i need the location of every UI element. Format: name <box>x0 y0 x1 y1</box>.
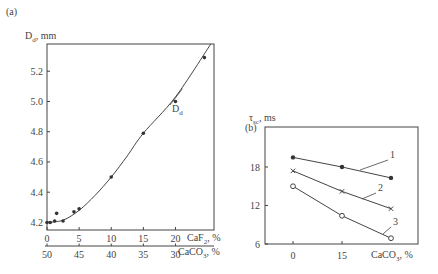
data-point <box>77 207 81 211</box>
data-point <box>109 175 113 179</box>
data-point <box>55 212 59 216</box>
series-label-1: 1 <box>390 149 395 160</box>
x-tick-label-caf2: 10 <box>106 233 116 244</box>
y-tick-label: 6 <box>255 239 260 250</box>
marker-open-circle <box>389 236 394 241</box>
x-tick-label-caf2: 0 <box>45 233 50 244</box>
x-tick-label: 15 <box>337 250 347 261</box>
y-tick-label: 4.6 <box>31 156 44 167</box>
data-point <box>174 100 178 104</box>
y-tick-label: 4.4 <box>31 187 44 198</box>
marker-filled-circle <box>291 155 295 159</box>
marker-open-circle <box>340 213 345 218</box>
dd-curve <box>47 44 211 222</box>
data-point <box>45 221 49 225</box>
x-tick-label-caco3: 30 <box>170 249 180 260</box>
series-line-3 <box>293 186 391 238</box>
marker-filled-circle <box>340 165 344 169</box>
series-label-leader <box>383 227 391 234</box>
y-tick-label: 5.0 <box>31 96 44 107</box>
marker-open-circle <box>291 184 296 189</box>
series-label-2: 2 <box>378 182 383 193</box>
y-tick-label: 12 <box>250 200 260 211</box>
x-tick-label-caf2: 15 <box>138 233 148 244</box>
series-line-2 <box>293 171 391 209</box>
chart-a-frame <box>47 44 214 230</box>
x-tick-label-caf2: 5 <box>77 233 82 244</box>
series-label-leader <box>362 193 376 199</box>
x-tick-label-caco3: 40 <box>106 249 116 260</box>
y-tick-label: 4.8 <box>31 126 44 137</box>
y-tick-label: 18 <box>250 162 260 173</box>
data-point <box>142 131 146 135</box>
x-tick-label-caco3: 50 <box>42 249 52 260</box>
series-label-3: 3 <box>393 216 398 227</box>
x-tick-label: 0 <box>291 250 296 261</box>
data-point <box>61 219 65 223</box>
marker-filled-circle <box>389 176 393 180</box>
x-tick-label-caco3: 35 <box>138 249 148 260</box>
figure-canvas: 4.24.44.64.85.05.20510152050454035306121… <box>0 0 438 274</box>
data-point <box>53 219 57 223</box>
data-point <box>48 221 52 225</box>
data-point <box>72 210 76 214</box>
y-tick-label: 5.2 <box>31 66 44 77</box>
data-point <box>203 56 207 60</box>
series-label-leader <box>360 160 388 170</box>
x-tick-label-caco3: 45 <box>74 249 84 260</box>
y-tick-label: 4.2 <box>31 217 44 228</box>
x-tick-label-caf2: 20 <box>170 233 180 244</box>
